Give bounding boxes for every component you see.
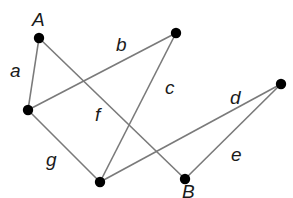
edge-label-c: c xyxy=(165,77,175,98)
edge-label-g: g xyxy=(46,149,57,170)
edge-label-f: f xyxy=(95,104,102,125)
node-R xyxy=(276,79,286,89)
node-M xyxy=(95,177,105,187)
node-L xyxy=(23,105,33,115)
edge-label-e: e xyxy=(231,144,242,165)
edge-g xyxy=(28,110,100,182)
edge-a xyxy=(28,38,39,110)
edges-layer xyxy=(28,33,281,182)
graph-diagram: abfcdegAB xyxy=(0,0,293,198)
node-A xyxy=(34,33,44,43)
node-label-B: B xyxy=(182,181,195,198)
edge-label-d: d xyxy=(230,87,242,108)
edge-label-a: a xyxy=(10,60,21,81)
labels-layer: abfcdegAB xyxy=(10,9,242,198)
nodes-layer xyxy=(23,28,286,187)
node-T xyxy=(171,28,181,38)
edge-d xyxy=(100,84,281,182)
edge-label-b: b xyxy=(116,34,127,55)
node-label-A: A xyxy=(31,9,45,30)
